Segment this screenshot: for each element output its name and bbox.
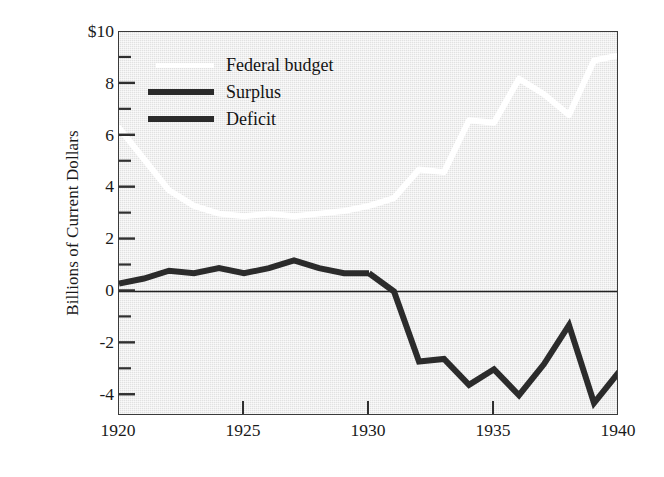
y-tick-label: -4: [58, 386, 114, 404]
legend-item-deficit: Deficit: [148, 106, 398, 133]
y-tick-label: 2: [58, 230, 114, 248]
y-tick-label: 0: [58, 282, 114, 300]
legend-label: Deficit: [226, 106, 276, 133]
legend-item-federal-budget: Federal budget: [148, 52, 398, 79]
y-axis-tick-labels: $10 8 6 4 2 0 -2 -4: [52, 0, 114, 477]
x-tick-label: 1925: [203, 422, 283, 440]
y-tick-label: -2: [58, 334, 114, 352]
legend-label: Surplus: [226, 79, 281, 106]
series-line-surplus: [119, 260, 369, 283]
series-line-deficit: [369, 273, 618, 403]
x-tick-label: 1930: [328, 422, 408, 440]
legend-swatch-deficit: [148, 116, 214, 122]
legend-swatch-surplus: [148, 89, 214, 95]
y-tick-label: 8: [58, 75, 114, 93]
y-tick-label: $10: [58, 23, 114, 41]
legend-label: Federal budget: [226, 52, 333, 79]
x-tick-label: 1940: [578, 422, 658, 440]
legend-swatch-federal-budget: [156, 63, 214, 68]
x-tick-label: 1920: [78, 422, 158, 440]
y-tick-label: 6: [58, 127, 114, 145]
y-tick-label: 4: [58, 178, 114, 196]
chart-figure: Billions of Current Dollars $10 8 6 4 2 …: [0, 0, 664, 477]
x-tick-label: 1935: [453, 422, 533, 440]
legend-item-surplus: Surplus: [148, 79, 398, 106]
chart-legend: Federal budget Surplus Deficit: [148, 52, 398, 133]
